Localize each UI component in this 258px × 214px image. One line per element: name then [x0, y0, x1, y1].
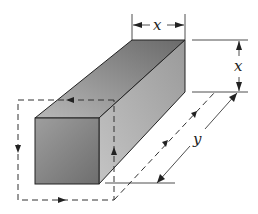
prism [35, 40, 185, 184]
right-x-label: x [234, 57, 243, 75]
y-label: y [192, 130, 202, 148]
diagram-figure: x x y [0, 0, 258, 214]
top-x-label: x [153, 16, 162, 34]
front-face [35, 118, 99, 184]
prism-diagram: x x y [0, 0, 258, 214]
